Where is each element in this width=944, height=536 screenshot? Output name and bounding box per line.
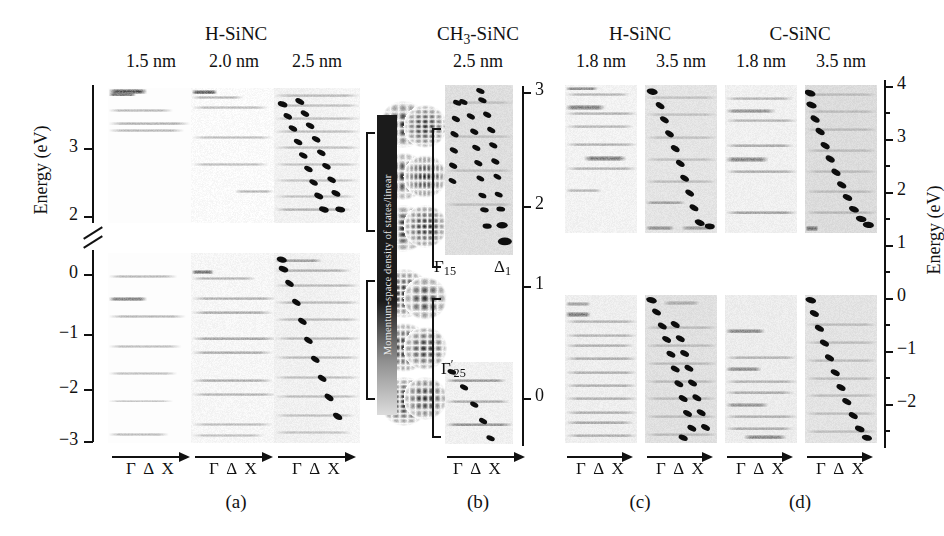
- band-a1-upper-canvas: [108, 88, 194, 223]
- colorbar-label: Momentum-space density of states/linear: [382, 175, 393, 356]
- left-axis-ticklabel-3: −1: [59, 323, 78, 341]
- size-title-5: 3.5 nm: [656, 52, 706, 70]
- left-axis-tick-4: [84, 389, 93, 391]
- band-d1-upper-canvas: [725, 85, 797, 233]
- middle-axis-tick-1: [522, 206, 531, 208]
- arrow-head: [262, 452, 273, 462]
- right-axis-ticklabel-2: 2: [897, 180, 906, 198]
- band-a3-upper-canvas: [274, 88, 360, 223]
- left-axis-ticklabel-1: 2: [69, 205, 78, 223]
- right-axis: [884, 80, 886, 448]
- band-b-upper: [445, 85, 513, 255]
- right-axis-tick-2: [884, 192, 893, 194]
- right-axis-ticklabel-3: 1: [897, 233, 906, 251]
- right-axis-minor-tick-1: [884, 165, 890, 167]
- left-axis-ticklabel-5: −3: [59, 430, 78, 448]
- left-axis-tick-3: [84, 334, 93, 336]
- band-a2-upper: [191, 88, 277, 223]
- right-axis-ticklabel-1: 3: [897, 127, 906, 145]
- band-a2-upper-canvas: [191, 88, 277, 223]
- kpath-label-3: Γ Δ X: [453, 460, 503, 477]
- middle-axis-tick-0: [522, 92, 531, 94]
- bracket-spine: [432, 298, 434, 438]
- panel-letter-2: (c): [630, 492, 651, 511]
- right-axis-title: Energy (eV): [925, 185, 943, 274]
- size-title-0: 1.5 nm: [126, 52, 176, 70]
- right-axis-minor-tick-3: [884, 271, 890, 273]
- kpath-label-4: Γ Δ X: [576, 460, 626, 477]
- right-axis-ticklabel-0: 4: [897, 74, 906, 92]
- right-axis-minor-tick-5: [884, 377, 890, 379]
- symmetry-label-delta1: Δ1: [494, 258, 511, 278]
- bracket-bottom: [366, 230, 375, 232]
- right-axis-ticklabel-5: −1: [897, 339, 916, 357]
- band-d2-upper-canvas: [805, 85, 877, 233]
- size-title-2: 2.5 nm: [292, 52, 342, 70]
- band-c1-upper: [565, 85, 637, 233]
- right-axis-tick-4: [884, 298, 893, 300]
- panel-letter-3: (d): [789, 492, 811, 511]
- panel-letter-0: (a): [226, 492, 247, 511]
- right-axis-minor-tick-2: [884, 218, 890, 220]
- group-title-2: H-SiNC: [609, 24, 671, 43]
- arrow-shaft: [567, 456, 623, 458]
- band-c1-lower: [565, 295, 637, 443]
- bracket-a-lower: [366, 280, 376, 400]
- left-axis-tick-5: [84, 441, 93, 443]
- left-axis-tick-2: [84, 274, 93, 276]
- arrow-shaft: [807, 456, 863, 458]
- band-d1-upper: [725, 85, 797, 233]
- arrow-shaft: [447, 456, 515, 458]
- right-axis-tick-1: [884, 139, 893, 141]
- kpath-label-5: Γ Δ X: [656, 460, 706, 477]
- band-c1-lower-canvas: [565, 295, 637, 443]
- band-a1-lower-canvas: [108, 253, 194, 443]
- arrow-shaft: [195, 456, 263, 458]
- bracket-spine: [366, 280, 368, 400]
- band-c2-upper-canvas: [645, 85, 717, 233]
- band-c2-lower-canvas: [645, 295, 717, 443]
- right-axis-tick-0: [884, 86, 893, 88]
- right-axis-ticklabel-4: 0: [897, 286, 906, 304]
- right-axis-tick-6: [884, 404, 893, 406]
- bracket-spine: [432, 128, 434, 268]
- bracket-bottom: [432, 436, 441, 438]
- group-title-3: C-SiNC: [770, 24, 831, 43]
- arrow-head: [514, 452, 525, 462]
- bracket-top: [432, 128, 441, 130]
- colorbar: Momentum-space density of states/linear: [377, 115, 397, 415]
- size-title-7: 3.5 nm: [816, 52, 866, 70]
- band-d2-upper: [805, 85, 877, 233]
- middle-axis: [522, 86, 524, 446]
- middle-axis-ticklabel-1: 2: [535, 194, 544, 212]
- arrow-shaft: [727, 456, 783, 458]
- bracket-top: [366, 132, 375, 134]
- left-axis-ticklabel-4: −2: [59, 378, 78, 396]
- left-axis-upper: [92, 85, 94, 223]
- band-a2-lower: [191, 253, 277, 443]
- left-axis-tick-0: [84, 148, 93, 150]
- group-title-0: H-SiNC: [205, 24, 267, 43]
- band-a2-lower-canvas: [191, 253, 277, 443]
- right-axis-tick-5: [884, 351, 893, 353]
- size-title-6: 1.8 nm: [736, 52, 786, 70]
- kpath-label-1: Γ Δ X: [209, 460, 259, 477]
- arrow-head: [345, 452, 356, 462]
- symmetry-label-gamma15: Γ15: [434, 258, 456, 278]
- middle-axis-ticklabel-0: 3: [535, 80, 544, 98]
- arrow-shaft: [112, 456, 180, 458]
- band-d2-lower: [805, 295, 877, 443]
- band-d2-lower-canvas: [805, 295, 877, 443]
- middle-axis-tick-3: [522, 398, 531, 400]
- middle-axis-ticklabel-3: 0: [535, 386, 544, 404]
- kpath-label-0: Γ Δ X: [126, 460, 176, 477]
- bracket-top: [432, 298, 441, 300]
- band-d1-lower: [725, 295, 797, 443]
- band-a1-lower: [108, 253, 194, 443]
- panel-letter-1: (b): [467, 492, 489, 511]
- right-axis-minor-tick-6: [884, 430, 890, 432]
- left-axis-ticklabel-0: 3: [69, 137, 78, 155]
- size-title-3: 2.5 nm: [453, 52, 503, 70]
- size-title-1: 2.0 nm: [209, 52, 259, 70]
